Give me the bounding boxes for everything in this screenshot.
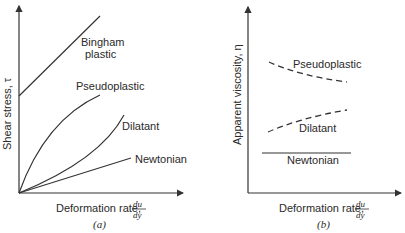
x-label-a-num: du bbox=[133, 199, 143, 209]
newtonian-curve-a bbox=[19, 158, 131, 193]
label-pseudoplastic-a: Pseudoplastic bbox=[76, 80, 145, 92]
x-label-a-den: dy bbox=[133, 210, 142, 220]
x-label-b-num: du bbox=[356, 199, 366, 209]
label-newtonian-a: Newtonian bbox=[135, 153, 187, 165]
rheology-diagram: Bingham plastic Pseudoplastic Dilatant N… bbox=[0, 0, 405, 233]
pseudoplastic-curve-a bbox=[19, 95, 100, 193]
y-label-a: Shear stress, τ bbox=[1, 77, 13, 150]
label-pseudoplastic-b: Pseudoplastic bbox=[293, 58, 362, 70]
label-dilatant-b: Dilatant bbox=[299, 122, 336, 134]
x-label-b: Deformation rate, bbox=[279, 202, 364, 214]
x-label-a: Deformation rate, bbox=[56, 202, 141, 214]
dilatant-curve-a bbox=[19, 115, 124, 193]
label-bingham-2: plastic bbox=[85, 48, 117, 60]
label-newtonian-b: Newtonian bbox=[287, 154, 339, 166]
caption-a: (a) bbox=[93, 218, 106, 231]
x-label-b-den: dy bbox=[356, 210, 365, 220]
y-label-b: Apparent viscosity, η bbox=[231, 44, 243, 145]
label-bingham-1: Bingham bbox=[81, 36, 124, 48]
panel-a: Bingham plastic Pseudoplastic Dilatant N… bbox=[1, 6, 187, 231]
panel-b: Pseudoplastic Dilatant Newtonian Apparen… bbox=[231, 7, 401, 231]
caption-b: (b) bbox=[317, 218, 330, 231]
label-dilatant-a: Dilatant bbox=[122, 120, 159, 132]
